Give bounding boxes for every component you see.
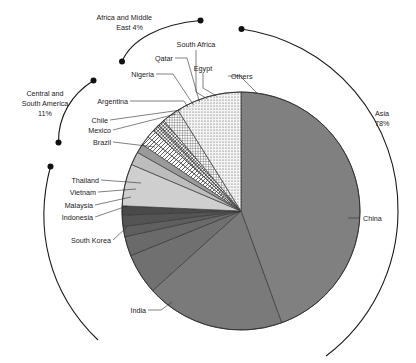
label-csa-line1: Central and xyxy=(26,89,63,98)
label-africa-middle-east-line1: Africa and Middle xyxy=(96,13,152,22)
leader-argentina xyxy=(130,101,188,108)
label-thailand: Thailand xyxy=(71,176,99,185)
label-csa-line3: 11% xyxy=(38,109,52,118)
label-china: China xyxy=(363,214,382,223)
leader-egypt xyxy=(203,73,217,96)
pie-slices-group xyxy=(122,92,360,330)
pie-chart-figure: Africa and Middle East 4% South Africa Q… xyxy=(0,0,416,363)
asia-left-bracket-dot xyxy=(48,164,54,170)
label-chile: Chile xyxy=(92,116,108,125)
csa-bracket-dot-bottom xyxy=(56,140,62,146)
label-africa-middle-east-line2: East 4% xyxy=(116,23,143,32)
label-argentina: Argentina xyxy=(97,97,128,106)
africa-bracket-dot-bottom xyxy=(119,59,125,65)
label-south-africa: South Africa xyxy=(177,40,216,49)
pie-chart-svg: Africa and Middle East 4% South Africa Q… xyxy=(0,0,416,363)
label-brazil: Brazil xyxy=(93,138,111,147)
label-qatar: Qatar xyxy=(155,54,174,63)
label-india: India xyxy=(130,306,146,315)
label-malaysia: Malaysia xyxy=(65,201,93,210)
leader-nigeria xyxy=(156,74,194,105)
label-egypt: Egypt xyxy=(194,64,212,73)
label-asia-line2: 78% xyxy=(375,119,390,128)
asia-bracket-dot-start xyxy=(239,26,245,32)
csa-bracket-dot-top xyxy=(91,78,97,84)
label-asia-line1: Asia xyxy=(375,109,389,118)
africa-bracket-dot-top xyxy=(198,18,204,24)
leader-south-africa xyxy=(196,50,208,99)
label-indonesia: Indonesia xyxy=(62,213,93,222)
label-mexico: Mexico xyxy=(88,126,111,135)
label-nigeria: Nigeria xyxy=(131,70,154,79)
label-csa-line2: South America xyxy=(22,99,69,108)
group-bracket-central-south-america xyxy=(56,78,97,146)
label-south-korea: South Korea xyxy=(71,236,111,245)
label-vietnam: Vietnam xyxy=(70,188,96,197)
label-others: Others xyxy=(231,72,253,81)
